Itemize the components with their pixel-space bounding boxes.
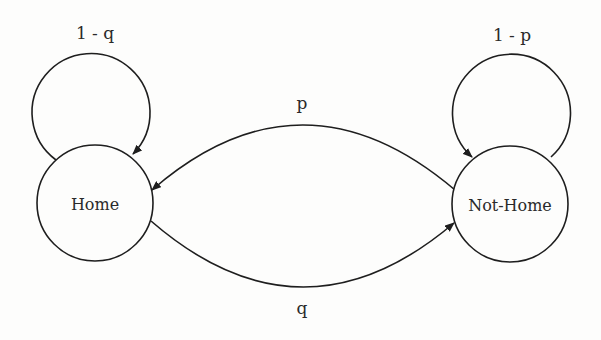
edge-not-home-to-home (152, 125, 455, 190)
state-not-home: Not-Home (452, 146, 568, 262)
state-home-label: Home (71, 195, 119, 214)
label-p: p (297, 93, 308, 113)
self-loop-not-home (453, 54, 571, 157)
label-home-loop: 1 - q (76, 23, 114, 43)
state-diagram: 1 - q 1 - p p q Home Not-Home (0, 0, 601, 340)
label-q: q (297, 298, 308, 318)
state-not-home-label: Not-Home (468, 196, 552, 215)
edge-home-to-not-home (151, 221, 454, 287)
self-loop-home (32, 54, 150, 160)
label-not-home-loop: 1 - p (493, 25, 531, 45)
state-home: Home (37, 145, 153, 261)
